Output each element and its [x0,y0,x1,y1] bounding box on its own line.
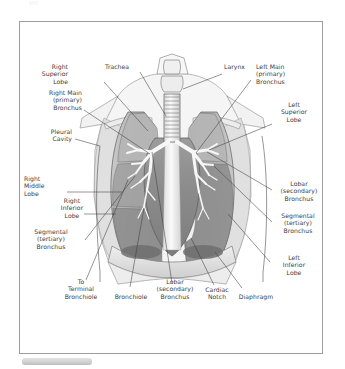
label-lobar-bronchus-bottom: Lobar (secondary) Bronchus [147,278,203,300]
label-lobar-bronchus-right-side: Lobar (secondary) Bronchus [268,180,330,202]
larynx-trachea [161,60,183,142]
label-pleural-cavity: Pleural Cavity [20,128,72,143]
label-right-inferior-lobe: Right Inferior Lobe [50,197,94,219]
label-right-middle-lobe: Right Middle Lobe [24,175,66,197]
label-larynx: Larynx [224,63,258,70]
label-left-inferior-lobe: Left Inferior Lobe [272,254,316,276]
label-left-superior-lobe: Left Superior Lobe [270,101,318,123]
label-segmental-bronchus-right-side: Segmental (tertiary) Bronchus [20,228,82,250]
label-cardiac-notch: Cardiac Notch [198,286,236,301]
label-to-terminal-bronchiole: To Terminal Bronchiole [52,278,110,300]
label-right-main-bronchus: Right Main (primary) Bronchus [14,89,82,111]
label-right-superior-lobe: Right Superior Lobe [28,63,68,85]
page-toolbar-placeholder[interactable] [22,358,92,365]
label-left-main-bronchus: Left Main (primary) Bronchus [256,63,312,85]
label-diaphragm: Diaphragm [232,293,280,300]
label-segmental-bronchus-left-side: Segmental (tertiary) Bronchus [266,212,330,234]
label-trachea: Trachea [105,63,145,70]
